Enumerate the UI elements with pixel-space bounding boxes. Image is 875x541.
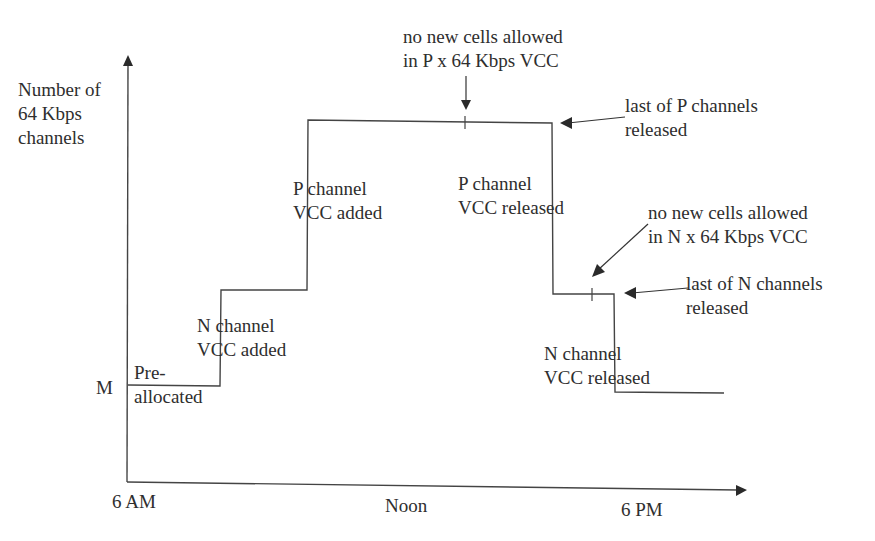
y-axis (123, 55, 133, 482)
x-axis (127, 482, 747, 496)
p-last-released-label: last of P channels released (625, 94, 758, 142)
n-added-label: N channel VCC added (197, 314, 286, 362)
diagram-canvas (0, 0, 875, 541)
n-no-new-cells-label: no new cells allowed in N x 64 Kbps VCC (648, 201, 808, 249)
y-axis-label: Number of 64 Kbps channels (18, 78, 101, 150)
x-axis-arrow-icon (736, 485, 747, 496)
n-last-released-arrow (632, 288, 688, 293)
n-last-released-label: last of N channels released (686, 272, 823, 320)
n-no-new-cells-arrow (598, 224, 648, 270)
n-released-label: N channel VCC released (544, 342, 650, 390)
x-tick-noon: Noon (385, 494, 427, 518)
y-tick-m: M (96, 376, 113, 400)
x-tick-6pm: 6 PM (621, 498, 663, 522)
p-no-new-cells-label: no new cells allowed in P x 64 Kbps VCC (403, 25, 563, 73)
x-tick-6am: 6 AM (112, 490, 156, 514)
p-last-released-arrow (568, 117, 625, 123)
y-axis-arrow-icon (123, 55, 133, 66)
p-added-label: P channel VCC added (293, 177, 382, 225)
preallocated-label: Pre- allocated (134, 361, 203, 409)
p-released-label: P channel VCC released (458, 172, 564, 220)
